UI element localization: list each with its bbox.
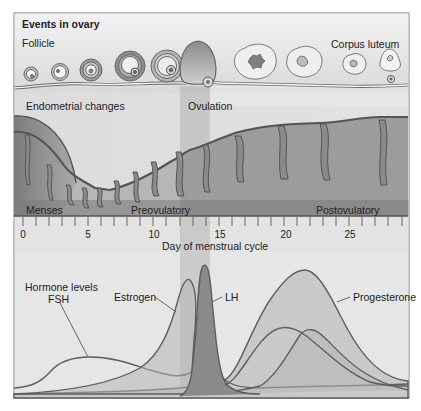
menstrual-cycle-diagram: Events in ovary Follicle Corpus luteum O… [0, 0, 421, 411]
ovary-section-title: Events in ovary [22, 19, 100, 30]
phase-preovulatory-label: Preovulatory [131, 205, 190, 216]
lh-label: LH [225, 292, 238, 303]
ovulation-label: Ovulation [188, 101, 232, 112]
tick-label-20: 20 [280, 230, 291, 240]
progesterone-label: Progesterone [353, 292, 416, 303]
hormone-section-title: Hormone levels [25, 282, 98, 293]
corpus-luteum-label: Corpus luteum [331, 39, 399, 50]
tick-label-25: 25 [344, 230, 355, 240]
axis-label: Day of menstrual cycle [162, 241, 268, 252]
tick-label-5: 5 [85, 230, 91, 240]
phase-menses-label: Menses [26, 205, 63, 216]
follicle-label: Follicle [22, 38, 55, 49]
tick-label-0: 0 [20, 230, 26, 240]
estrogen-label: Estrogen [114, 292, 156, 303]
phase-postovulatory-label: Postovulatory [316, 205, 380, 216]
endometrium-section-title: Endometrial changes [26, 101, 125, 112]
tick-label-15: 15 [214, 230, 225, 240]
tick-label-10: 10 [148, 230, 159, 240]
fsh-label: FSH [48, 294, 69, 305]
